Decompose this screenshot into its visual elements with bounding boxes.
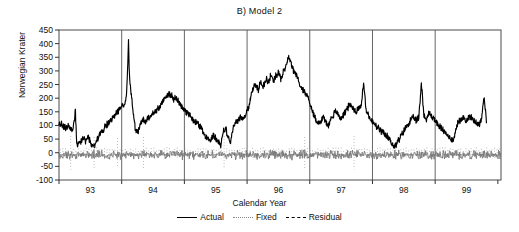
series-line-actual xyxy=(59,40,486,149)
x-axis-label: Calendar Year xyxy=(0,198,519,208)
legend-swatch-dotted-icon xyxy=(233,214,253,221)
legend-entry-actual: Actual xyxy=(177,212,224,222)
chart-figure: B) Model 2 Norwegian Krater 450400350300… xyxy=(0,0,519,232)
legend-label-actual: Actual xyxy=(200,212,224,222)
chart-legend: Actual Fixed Residual xyxy=(0,212,519,222)
legend-label-fixed: Fixed xyxy=(256,212,277,222)
legend-entry-residual: Residual xyxy=(286,212,342,222)
legend-label-residual: Residual xyxy=(309,212,342,222)
legend-swatch-solid-icon xyxy=(177,214,197,221)
legend-entry-fixed: Fixed xyxy=(233,212,277,222)
legend-swatch-dashed-icon xyxy=(286,214,306,221)
